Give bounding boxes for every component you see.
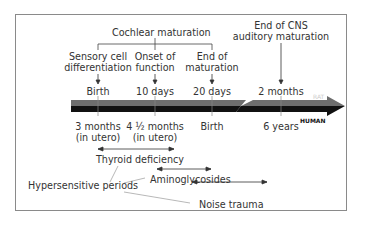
milestone-label-3: End ofmaturation xyxy=(177,51,247,73)
cochlear-maturation-header: Cochlear maturation xyxy=(112,27,202,38)
period-thyroid-deficiency: Thyroid deficiency xyxy=(96,154,184,165)
rat-age-2: 10 days xyxy=(125,86,185,97)
timeline-bar xyxy=(71,96,345,116)
human-age-4: 6 years xyxy=(251,121,311,132)
rat-age-4: 2 months xyxy=(251,86,311,97)
rat-age-3: 20 days xyxy=(182,86,242,97)
rat-age-1: Birth xyxy=(68,86,128,97)
rat-species-label: RAT xyxy=(313,91,324,102)
human-age-2: 4 ½ months(in utero) xyxy=(120,121,190,143)
period-noise-trauma: Noise trauma xyxy=(199,199,264,210)
hypersensitive-periods-label: Hypersensitive periods xyxy=(28,180,138,191)
milestone-label-4: End of CNSauditory maturation xyxy=(231,20,331,42)
human-age-3: Birth xyxy=(182,121,242,132)
period-aminoglycosides: Aminoglycosides xyxy=(150,174,231,185)
